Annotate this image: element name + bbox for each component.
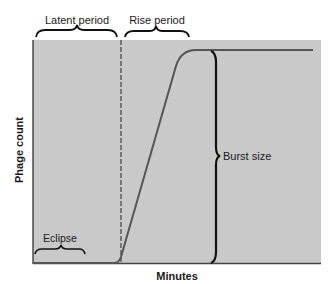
latent-period-label: Latent period: [45, 14, 109, 26]
latent-period-brace: [36, 25, 117, 37]
x-axis-title: Minutes: [156, 270, 198, 282]
plot-area: [33, 40, 321, 263]
y-axis-title: Phage count: [13, 117, 25, 183]
burst-size-label: Burst size: [223, 150, 271, 162]
rise-period-label: Rise period: [129, 14, 185, 26]
growth-curve-chart: Latent period Rise period Eclipse Burst …: [0, 0, 336, 284]
rise-period-brace: [125, 26, 189, 37]
eclipse-label: Eclipse: [43, 232, 77, 244]
